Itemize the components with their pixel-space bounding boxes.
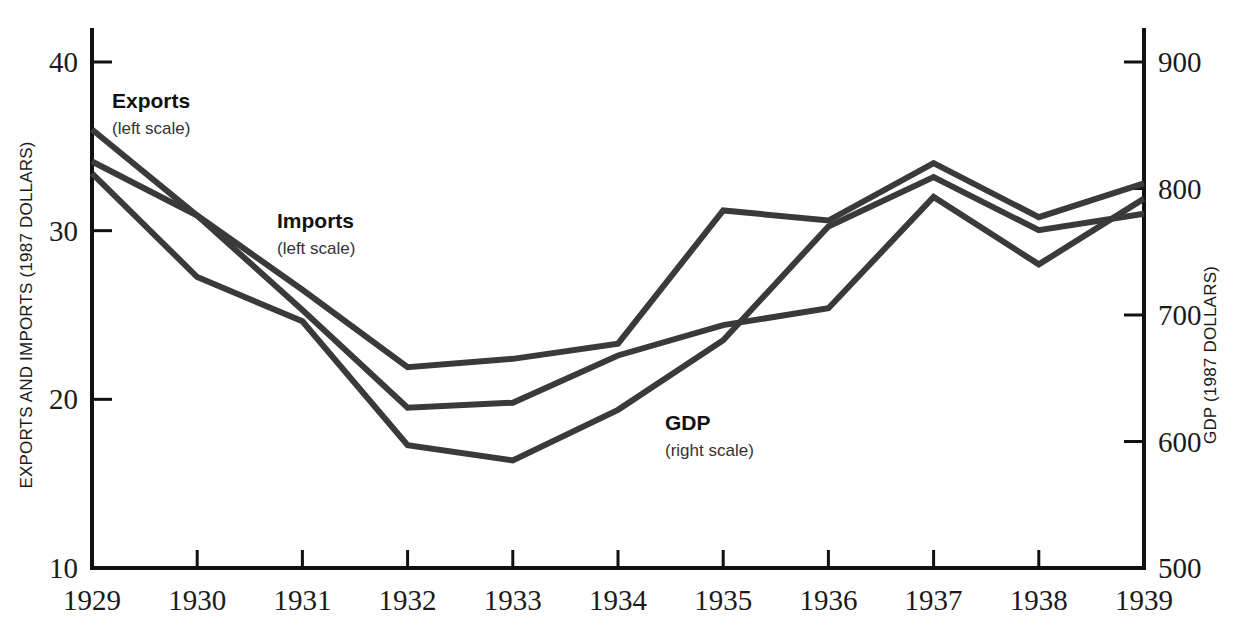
series-line-exports xyxy=(92,129,1144,367)
x-axis-tick-label: 1934 xyxy=(589,584,648,616)
x-axis-tick-label: 1929 xyxy=(63,584,121,616)
series-line-imports xyxy=(92,162,1144,408)
series-label-gdp: GDP xyxy=(665,411,711,434)
x-axis-tick-label: 1932 xyxy=(379,584,437,616)
right-axis-tick-label: 600 xyxy=(1158,426,1202,458)
right-axis-tick-label: 500 xyxy=(1158,552,1202,584)
series-line-gdp xyxy=(92,173,1144,460)
x-axis-tick-label: 1939 xyxy=(1115,584,1173,616)
series-label-exports: Exports xyxy=(112,89,190,112)
line-chart-svg: 1020304050060070080090019291930193119321… xyxy=(0,0,1247,628)
right-axis-title: GDP (1987 DOLLARS) xyxy=(1201,266,1220,444)
x-axis-tick-label: 1937 xyxy=(905,584,963,616)
right-axis-tick-label: 700 xyxy=(1158,299,1202,331)
left-axis-tick-label: 40 xyxy=(49,46,78,78)
left-axis-title: EXPORTS AND IMPORTS (1987 DOLLARS) xyxy=(17,141,36,488)
x-axis-tick-label: 1931 xyxy=(273,584,331,616)
right-axis-tick-label: 900 xyxy=(1158,46,1202,78)
x-axis-tick-label: 1938 xyxy=(1010,584,1068,616)
chart-figure: 1020304050060070080090019291930193119321… xyxy=(0,0,1247,628)
x-axis-tick-label: 1933 xyxy=(484,584,542,616)
series-sublabel-imports: (left scale) xyxy=(277,239,355,258)
x-axis-tick-label: 1936 xyxy=(799,584,857,616)
left-axis-tick-label: 10 xyxy=(49,552,78,584)
left-axis-tick-label: 30 xyxy=(49,215,78,247)
series-sublabel-gdp: (right scale) xyxy=(665,441,754,460)
right-axis-tick-label: 800 xyxy=(1158,173,1202,205)
x-axis-tick-label: 1935 xyxy=(694,584,752,616)
left-axis-tick-label: 20 xyxy=(49,383,78,415)
series-label-imports: Imports xyxy=(277,209,354,232)
x-axis-tick-label: 1930 xyxy=(168,584,226,616)
series-sublabel-exports: (left scale) xyxy=(112,119,190,138)
